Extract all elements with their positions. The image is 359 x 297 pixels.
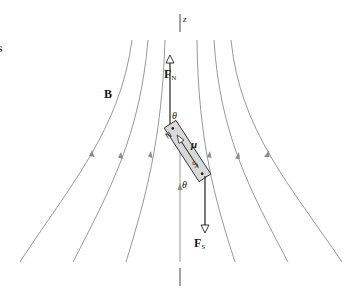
field-line-left-inner — [126, 40, 165, 262]
force-south-vector — [201, 176, 209, 233]
arrow-icon — [148, 151, 153, 158]
field-line-right-outer — [231, 40, 342, 262]
diagram-canvas — [0, 0, 359, 297]
force-north-subscript: N — [171, 74, 176, 82]
bar-magnet — [164, 120, 211, 181]
field-line-arrowheads — [89, 150, 270, 190]
hollow-arrowhead-icon — [166, 55, 174, 63]
arrow-icon — [207, 151, 212, 158]
force-south-subscript: S — [201, 243, 205, 251]
arrow-icon — [264, 150, 270, 157]
magnetic-moment-label: μ — [191, 139, 197, 150]
field-label-b: B — [104, 88, 112, 100]
force-north-label: FN — [164, 68, 176, 82]
cropped-edge-glyph: s — [0, 43, 3, 54]
arrow-icon — [118, 152, 123, 159]
angle-label-top: θ — [172, 111, 177, 121]
arrow-icon — [235, 152, 240, 159]
hollow-arrowhead-icon — [201, 225, 209, 233]
diverging-field-diagram: s z B FN θ μ θ FS N S — [0, 0, 359, 297]
field-line-left-middle — [73, 40, 148, 262]
z-axis-label: z — [183, 15, 187, 24]
angle-label-bottom: θ — [182, 180, 187, 190]
field-line-left-outer — [20, 40, 132, 262]
force-south-label: FS — [194, 237, 205, 251]
arrow-icon — [89, 150, 95, 157]
